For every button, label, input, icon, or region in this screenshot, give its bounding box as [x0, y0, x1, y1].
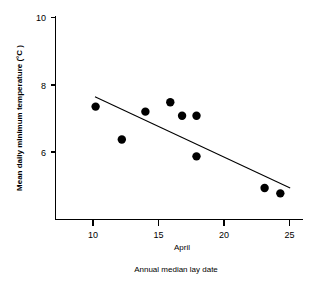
- y-tick-label-6: 6: [41, 148, 46, 158]
- chart-figure: 10 8 6 10 15 20 25 April Annual median l…: [0, 0, 322, 284]
- x-tick-label-25: 25: [284, 230, 294, 240]
- x-axis-title: Annual median lay date: [134, 265, 218, 274]
- data-point: [260, 184, 268, 192]
- data-points-group: [91, 98, 284, 198]
- data-point: [141, 107, 149, 115]
- y-axis-title: Mean daily minimum temperature (°C ): [15, 45, 24, 191]
- x-axis-sublabel: April: [174, 243, 190, 252]
- x-tick-label-10: 10: [88, 230, 98, 240]
- data-point: [118, 135, 126, 143]
- x-tick-label-15: 15: [153, 230, 163, 240]
- scatter-plot: 10 8 6 10 15 20 25 April Annual median l…: [0, 0, 322, 284]
- data-point: [192, 111, 200, 119]
- y-tick-label-10: 10: [36, 13, 46, 23]
- y-tick-label-8: 8: [41, 81, 46, 91]
- data-point: [91, 102, 99, 110]
- data-point: [178, 111, 186, 119]
- data-point: [166, 98, 174, 106]
- data-point: [192, 152, 200, 160]
- x-tick-label-20: 20: [219, 230, 229, 240]
- data-point: [276, 189, 284, 197]
